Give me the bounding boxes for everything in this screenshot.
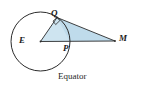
vertex-dot-M <box>114 40 116 42</box>
vertex-label-P: P <box>63 44 69 53</box>
segment-EM <box>41 41 116 42</box>
vertex-label-M: M <box>119 34 127 43</box>
geometry-figure: Q E P M Equator <box>0 0 142 90</box>
vertex-label-Q: Q <box>51 9 58 18</box>
vertex-label-E: E <box>19 36 25 45</box>
vertex-dot-E <box>40 41 42 43</box>
figure-caption-equator: Equator <box>58 72 87 81</box>
